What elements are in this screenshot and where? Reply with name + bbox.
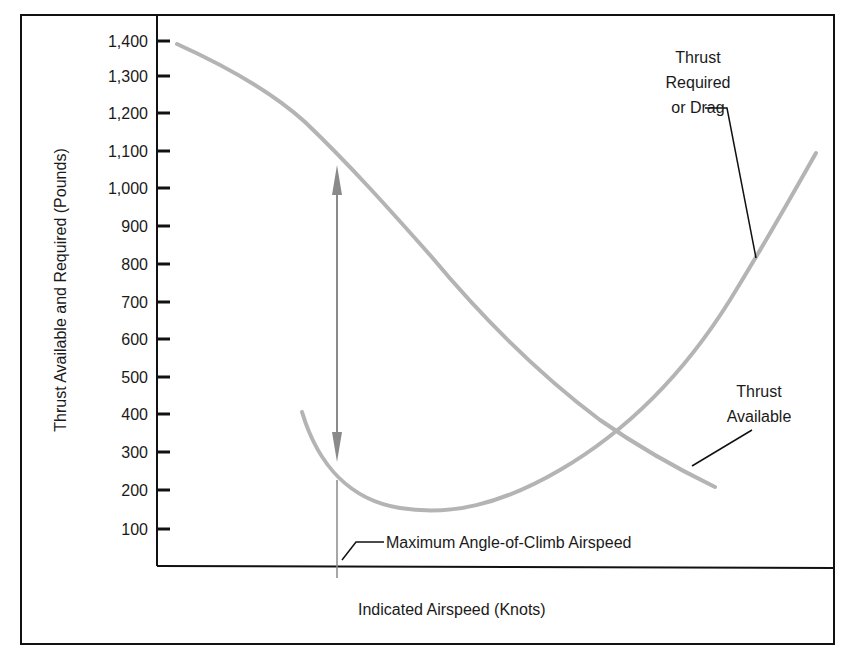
- drag-label-line1: Thrust: [675, 49, 721, 66]
- avail-leader-line: [692, 430, 752, 466]
- arrow-head-up-icon: [332, 165, 342, 195]
- x-axis-title: Indicated Airspeed (Knots): [358, 601, 546, 618]
- thrust-available-curve: [177, 44, 715, 487]
- x-axis: [157, 566, 834, 568]
- y-tick-label: 500: [121, 369, 148, 386]
- y-tick-label: 1,400: [108, 33, 148, 50]
- avail-label-line1: Thrust: [736, 383, 782, 400]
- y-tick-label: 1,000: [108, 180, 148, 197]
- avail-label-line2: Available: [727, 408, 792, 425]
- y-tick-label: 600: [121, 331, 148, 348]
- y-tick-label: 100: [121, 521, 148, 538]
- y-ticks: 1,4001,3001,2001,1001,000900800700600500…: [108, 33, 170, 538]
- thrust-required-curve: [302, 153, 816, 510]
- y-tick-label: 400: [121, 406, 148, 423]
- y-tick-label: 700: [121, 294, 148, 311]
- thrust-chart: 1,4001,3001,2001,1001,000900800700600500…: [0, 0, 847, 660]
- drag-leader-line: [705, 108, 756, 258]
- drag-label-line2: Required: [666, 74, 731, 91]
- y-tick-label: 800: [121, 256, 148, 273]
- y-tick-label: 1,300: [108, 68, 148, 85]
- arrow-head-down-icon: [332, 432, 342, 462]
- max-climb-leader-line: [342, 542, 384, 560]
- y-tick-label: 200: [121, 482, 148, 499]
- y-tick-label: 900: [121, 218, 148, 235]
- y-tick-label: 1,200: [108, 105, 148, 122]
- y-axis-title: Thrust Available and Required (Pounds): [52, 148, 69, 431]
- y-tick-label: 300: [121, 444, 148, 461]
- max-climb-label: Maximum Angle-of-Climb Airspeed: [386, 534, 631, 551]
- y-tick-label: 1,100: [108, 143, 148, 160]
